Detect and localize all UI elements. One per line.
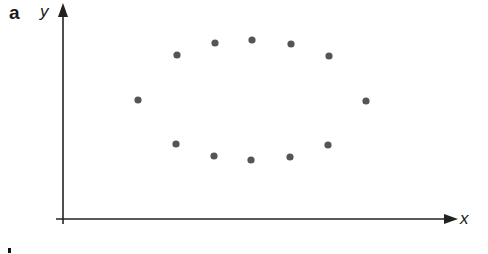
- data-point: [286, 153, 293, 160]
- scatter-plot: [0, 0, 488, 254]
- x-axis-arrow-icon: [444, 214, 458, 224]
- data-point: [287, 40, 294, 47]
- data-point: [173, 51, 180, 58]
- data-point: [134, 96, 141, 103]
- data-point: [248, 36, 255, 43]
- data-point: [324, 141, 331, 148]
- data-point: [362, 97, 369, 104]
- data-point: [172, 140, 179, 147]
- data-point: [325, 52, 332, 59]
- y-axis-arrow-icon: [58, 3, 68, 17]
- data-point: [211, 39, 218, 46]
- data-point: [210, 152, 217, 159]
- data-point: [247, 156, 254, 163]
- data-points: [134, 36, 369, 163]
